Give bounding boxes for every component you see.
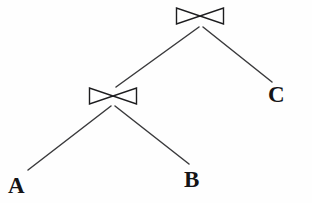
edge-group (28, 27, 272, 170)
edge-inner-to-leaf-b (115, 106, 189, 164)
inner-join-node[interactable] (90, 88, 137, 104)
tree-graphics (0, 0, 312, 203)
leaf-node-b[interactable]: B (184, 168, 199, 191)
join-bowtie-icon (90, 88, 137, 104)
leaf-node-c[interactable]: C (268, 83, 285, 106)
edge-root-to-inner-join (116, 27, 199, 87)
leaf-node-a[interactable]: A (8, 174, 25, 197)
root-join-node[interactable] (177, 8, 224, 24)
join-bowtie-icon (177, 8, 224, 24)
query-tree-diagram: A B C (0, 0, 312, 203)
edge-root-to-leaf-c (203, 27, 272, 82)
edge-inner-to-leaf-a (28, 106, 111, 170)
